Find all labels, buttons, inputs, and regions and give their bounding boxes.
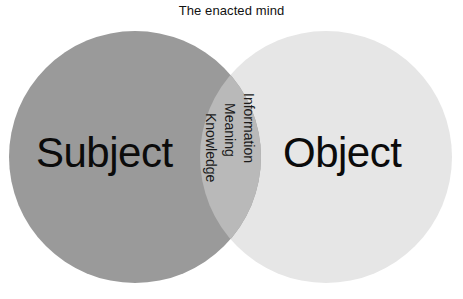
venn-label-subject: Subject <box>36 132 173 174</box>
intersection-label-meaning: Meaning <box>221 103 239 221</box>
venn-label-object: Object <box>283 132 401 174</box>
diagram-canvas: The enacted mind Subject Object Knowledg… <box>0 0 463 299</box>
intersection-label-information: Information <box>240 93 258 211</box>
venn-intersection-labels: Knowledge Meaning Information <box>196 85 264 209</box>
intersection-label-knowledge: Knowledge <box>202 113 220 231</box>
